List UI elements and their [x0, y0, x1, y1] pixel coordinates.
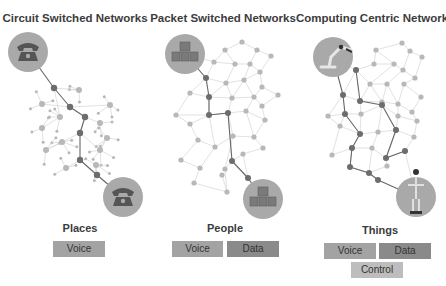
path-node — [206, 94, 212, 100]
path-node — [349, 145, 355, 151]
network-node — [254, 47, 259, 52]
network-node — [247, 61, 252, 66]
network-node — [212, 144, 217, 149]
network-edge — [206, 78, 226, 83]
network-node — [211, 59, 216, 64]
network-node — [107, 102, 113, 108]
network-node — [257, 69, 262, 74]
network-node — [419, 54, 424, 59]
network-node — [117, 138, 120, 141]
network-edge — [254, 120, 265, 137]
network-edge — [80, 133, 100, 150]
network-node — [59, 157, 62, 160]
network-edge — [387, 70, 403, 84]
network-node — [108, 172, 111, 175]
path-node — [379, 102, 385, 108]
network-node — [55, 130, 58, 133]
path-node — [340, 92, 346, 98]
category-label-people: People — [190, 222, 260, 234]
path-node — [347, 164, 353, 170]
network-node — [384, 163, 389, 168]
network-edge — [209, 97, 232, 98]
network-edge — [398, 116, 417, 121]
path-edge — [386, 151, 405, 158]
network-node — [63, 165, 69, 171]
network-edge — [232, 97, 254, 98]
network-edge — [225, 42, 242, 50]
network-node — [325, 113, 330, 118]
network-node — [223, 80, 228, 85]
network-node — [94, 130, 97, 133]
network-edge — [209, 115, 215, 147]
network-edge — [232, 80, 244, 98]
network-node — [329, 152, 334, 157]
robot-arm-icon — [313, 37, 353, 77]
network-node — [30, 131, 33, 134]
network-edge — [233, 136, 254, 137]
network-edge — [226, 64, 235, 83]
network-edge — [181, 160, 200, 168]
network-node — [54, 136, 57, 139]
network-node — [239, 39, 244, 44]
network-node — [43, 163, 46, 166]
path-node — [229, 158, 235, 164]
network-node — [57, 114, 63, 120]
network-edge — [332, 148, 352, 155]
voice-chip: Voice — [53, 241, 105, 257]
network-node — [230, 133, 235, 138]
voice-chip: Voice — [324, 243, 376, 259]
network-edge — [246, 111, 254, 137]
network-node — [97, 120, 103, 126]
path-node — [383, 155, 389, 161]
voice-chip: Voice — [172, 241, 223, 257]
category-label-things: Things — [345, 224, 415, 236]
path-node — [51, 85, 57, 91]
network-node — [93, 179, 96, 182]
path-node — [67, 104, 73, 110]
network-edge — [226, 80, 244, 83]
network-edge — [343, 70, 356, 95]
network-node — [104, 135, 110, 141]
network-node — [371, 61, 376, 66]
network-node — [93, 162, 99, 168]
network-node — [414, 118, 419, 123]
network-node — [222, 166, 227, 171]
network-edge — [412, 97, 421, 112]
network-node — [401, 81, 406, 86]
path-edge — [382, 105, 396, 130]
network-node — [97, 147, 103, 153]
network-edge — [243, 148, 263, 154]
network-edge — [243, 154, 248, 178]
network-node — [369, 145, 374, 150]
network-node — [78, 101, 81, 104]
network-node — [39, 125, 45, 131]
network-edge — [244, 80, 254, 97]
network-edge — [70, 105, 110, 107]
network-edge — [262, 95, 278, 106]
network-node — [100, 134, 103, 137]
boxes-icon — [243, 179, 283, 219]
data-chip: Data — [379, 243, 431, 259]
path-node — [393, 127, 399, 133]
network-node — [76, 87, 82, 93]
network-node — [195, 137, 200, 142]
network-node — [268, 53, 273, 58]
network-edge — [190, 115, 209, 124]
network-edge — [415, 57, 422, 78]
telephone-icon — [103, 177, 143, 217]
network-edge — [214, 62, 235, 64]
network-edge — [198, 140, 215, 147]
network-node — [259, 103, 264, 108]
network-node — [418, 94, 423, 99]
path-node — [375, 177, 381, 183]
network-node — [42, 141, 45, 144]
network-edge — [181, 140, 198, 160]
network-node — [97, 112, 100, 115]
network-node — [178, 157, 183, 162]
network-node — [173, 112, 178, 117]
network-node — [53, 108, 56, 111]
network-node — [395, 101, 400, 106]
network-node — [43, 147, 49, 153]
network-node — [92, 158, 95, 161]
network-node — [68, 85, 71, 88]
